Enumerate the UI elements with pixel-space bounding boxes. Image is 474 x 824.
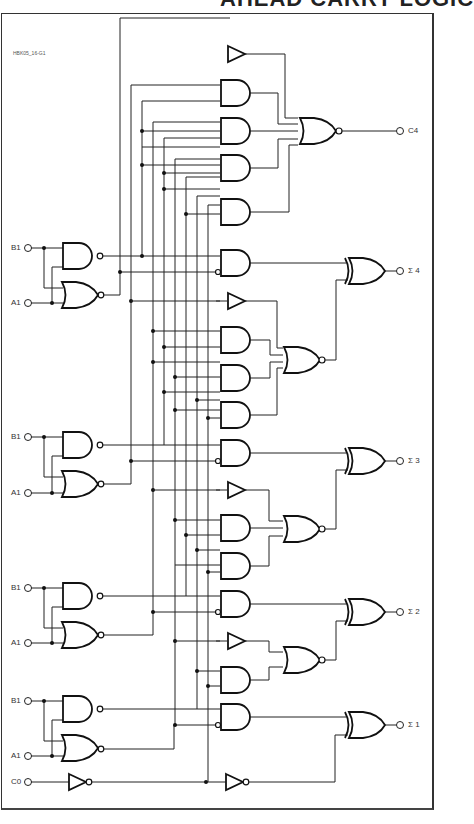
sum-3-block bbox=[216, 440, 404, 579]
input-stage-4 bbox=[25, 243, 221, 308]
inverter-s1 bbox=[226, 774, 243, 790]
input-label-b2: B1 bbox=[11, 583, 21, 592]
buffer-s2 bbox=[228, 633, 245, 649]
nor-c4 bbox=[300, 118, 336, 144]
inverter-c0 bbox=[69, 774, 86, 790]
buffer-s3 bbox=[228, 482, 245, 498]
nor-input-gate-1 bbox=[62, 735, 98, 761]
carry-in-stage bbox=[25, 774, 227, 790]
output-label-s4: Σ 4 bbox=[408, 266, 420, 275]
output-label-s2: Σ 2 bbox=[408, 607, 420, 616]
output-pin-s3 bbox=[397, 458, 404, 465]
nor-input-gate-4 bbox=[62, 282, 98, 308]
input-stage-3 bbox=[25, 432, 221, 497]
nor-input-gate-3 bbox=[62, 471, 98, 497]
and-s1 bbox=[221, 704, 250, 730]
nand-gate-2 bbox=[63, 583, 92, 609]
nand-gate-4 bbox=[63, 243, 92, 269]
carry-out-block bbox=[221, 46, 404, 225]
xor-s1 bbox=[349, 712, 385, 738]
output-pin-s2 bbox=[397, 609, 404, 616]
input-label-b3: B1 bbox=[11, 432, 21, 441]
input-pin-b4 bbox=[25, 245, 32, 252]
and-s2 bbox=[221, 591, 250, 617]
output-pin-s4 bbox=[397, 268, 404, 275]
output-label-s3: Σ 3 bbox=[408, 456, 420, 465]
xor-s3 bbox=[349, 448, 385, 474]
sum-1-block bbox=[216, 704, 404, 790]
and-c4-1 bbox=[221, 80, 250, 106]
nor-s2 bbox=[284, 647, 320, 673]
and-s4-2 bbox=[221, 365, 250, 391]
input-label-a2: A1 bbox=[11, 638, 21, 647]
input-label-a4: A1 bbox=[11, 298, 21, 307]
input-label-a3: A1 bbox=[11, 488, 21, 497]
nor-input-gate-2 bbox=[62, 622, 98, 648]
output-label-s1: Σ 1 bbox=[408, 720, 420, 729]
and-s3-1 bbox=[221, 515, 250, 541]
output-pin-c4 bbox=[397, 128, 404, 135]
input-label-a1: A1 bbox=[11, 751, 21, 760]
nand-gate-1 bbox=[63, 696, 92, 722]
input-label-c0: C0 bbox=[11, 777, 21, 786]
input-stage-1 bbox=[25, 696, 221, 761]
sum-2-block bbox=[216, 591, 404, 693]
input-pin-a4 bbox=[25, 300, 32, 307]
and-s2-1 bbox=[221, 667, 250, 693]
sum-4-block bbox=[216, 250, 404, 428]
and-c4-2 bbox=[221, 118, 250, 144]
xor-s2 bbox=[349, 599, 385, 625]
and-s3 bbox=[221, 440, 250, 466]
nor-s4 bbox=[284, 347, 320, 373]
input-label-b1: B1 bbox=[11, 696, 21, 705]
buffer-s4 bbox=[228, 293, 245, 309]
and-s3-2 bbox=[221, 553, 250, 579]
xor-s4 bbox=[349, 258, 385, 284]
and-s4-3 bbox=[221, 402, 250, 428]
and-s4 bbox=[221, 250, 250, 276]
input-label-b4: B1 bbox=[11, 243, 21, 252]
output-pin-s1 bbox=[397, 722, 404, 729]
and-c4-3 bbox=[221, 155, 250, 181]
and-s4-1 bbox=[221, 327, 250, 353]
nand-gate-3 bbox=[63, 432, 92, 458]
buffer-c4 bbox=[228, 46, 245, 62]
nor-s3 bbox=[284, 516, 320, 542]
and-c4-4 bbox=[221, 199, 250, 225]
input-stage-2 bbox=[25, 583, 221, 648]
output-label-c4: C4 bbox=[408, 126, 418, 135]
signal-bus bbox=[118, 18, 230, 782]
